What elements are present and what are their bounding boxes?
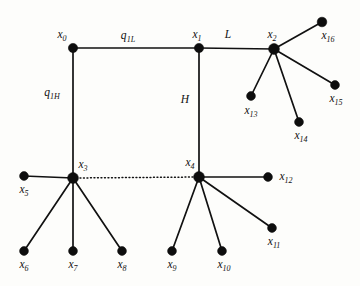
node-label-x13: x13 xyxy=(244,105,257,117)
node-x7 xyxy=(69,247,78,256)
node-x6 xyxy=(20,247,29,256)
node-label-x11: x11 xyxy=(268,236,281,248)
edges-group xyxy=(24,22,335,251)
edge-x3-x5 xyxy=(24,176,73,178)
edge-x4-x11 xyxy=(199,177,272,228)
node-x13 xyxy=(247,92,256,101)
node-label-x5: x5 xyxy=(19,184,28,196)
edge-x2-x14 xyxy=(274,49,299,122)
edge-label-L: L xyxy=(225,29,232,41)
edge-x4-x9 xyxy=(172,177,199,251)
node-x3 xyxy=(68,173,79,184)
node-label-x6: x6 xyxy=(19,259,28,271)
node-x16 xyxy=(317,17,327,27)
edge-x3-x6 xyxy=(24,178,73,251)
node-label-x15: x15 xyxy=(329,93,342,105)
node-x0 xyxy=(68,43,77,52)
edge-label-H: H xyxy=(181,94,189,106)
node-x15 xyxy=(331,81,340,90)
edge-label-q1L: q1L xyxy=(121,30,135,42)
node-x9 xyxy=(168,247,177,256)
node-label-x0: x0 xyxy=(57,29,66,41)
node-label-x14: x14 xyxy=(294,130,307,142)
node-label-x8: x8 xyxy=(117,259,126,271)
node-label-x7: x7 xyxy=(68,259,77,271)
node-label-x3: x3 xyxy=(78,159,87,171)
nodes-group xyxy=(20,17,340,255)
edge-x4-x10 xyxy=(199,177,222,251)
edge-x1-x2 xyxy=(199,48,274,49)
node-x14 xyxy=(295,118,304,127)
node-x12 xyxy=(264,173,273,182)
edge-label-q1H: q1H xyxy=(44,87,60,99)
edge-x2-x15 xyxy=(274,49,335,85)
node-label-x2: x2 xyxy=(267,29,276,41)
node-x1 xyxy=(194,43,203,52)
graph-diagram: x0x1x2x3x4x5x6x7x8x9x10x11x12x13x14x15x1… xyxy=(0,0,360,286)
node-x11 xyxy=(268,224,277,233)
edge-x3-x4 xyxy=(73,177,199,178)
edge-x2-x13 xyxy=(251,49,274,96)
node-label-x12: x12 xyxy=(279,171,292,183)
node-x2 xyxy=(269,44,280,55)
edge-x2-x16 xyxy=(274,22,322,49)
node-x10 xyxy=(218,247,227,256)
node-label-x10: x10 xyxy=(217,259,230,271)
node-x8 xyxy=(118,247,127,256)
node-label-x9: x9 xyxy=(167,259,176,271)
node-label-x4: x4 xyxy=(185,157,194,169)
node-x4 xyxy=(194,172,205,183)
node-x5 xyxy=(20,172,29,181)
node-label-x16: x16 xyxy=(321,30,334,42)
edge-x3-x8 xyxy=(73,178,122,251)
node-label-x1: x1 xyxy=(192,29,201,41)
